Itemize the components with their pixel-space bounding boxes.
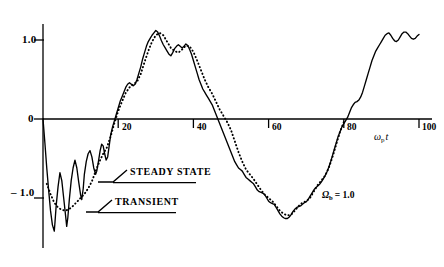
- y-tick-label-neg1: – 1.0: [11, 186, 35, 198]
- x-axis-label: ωpt: [374, 131, 388, 144]
- x-tick-label-100: 100: [422, 122, 436, 132]
- x-tick-label-20: 20: [122, 122, 132, 132]
- omega-b-value: = 1.0: [335, 190, 355, 200]
- omega-b-subscript: b: [329, 194, 333, 201]
- steady-state-callout-label: STEADY STATE: [130, 166, 211, 177]
- steady-state-leader: [98, 170, 127, 182]
- omega-p-subscript: p: [381, 136, 385, 144]
- x-tick-label-60: 60: [272, 122, 282, 132]
- omega-b-annotation: Ωb= 1.0: [322, 190, 354, 201]
- figure-container: 1.0 0 – 1.0 20 40 60 80 100 STEADY STATE…: [0, 0, 444, 267]
- y-tick-label-1: 1.0: [22, 33, 37, 45]
- transient-leader: [86, 200, 112, 212]
- time-symbol: t: [386, 131, 389, 142]
- x-tick-label-80: 80: [347, 122, 357, 132]
- y-tick-label-0: 0: [28, 112, 34, 124]
- x-tick-label-40: 40: [197, 122, 207, 132]
- data-series-group: [43, 31, 419, 232]
- series-steady-state: [47, 33, 344, 215]
- transient-callout-label: TRANSIENT: [115, 196, 179, 207]
- omega-symbol: ω: [374, 131, 381, 142]
